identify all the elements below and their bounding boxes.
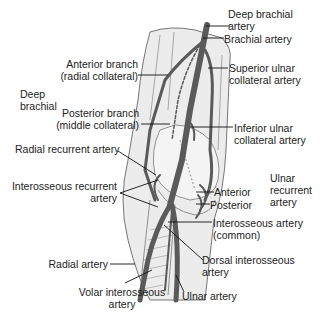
label-radial-recurrent: Radial recurrent artery — [15, 143, 119, 155]
label-anterior: Anterior — [214, 186, 251, 198]
label-posterior-branch: Posterior branch (middle collateral) — [56, 107, 139, 131]
label-deep-brachial-artery: Deep brachial artery — [228, 8, 293, 32]
label-interosseous-common: Interosseous artery (common) — [213, 217, 303, 241]
label-dorsal-interosseous: Dorsal interosseous artery — [202, 254, 295, 278]
label-ulnar-artery: Ulnar artery — [182, 290, 237, 302]
label-ulnar-recurrent: Ulnar recurrent artery — [270, 172, 312, 208]
label-anterior-branch: Anterior branch (radial collateral) — [60, 58, 138, 82]
elbow-arteries-diagram: Deep brachial artery Brachial artery Ant… — [0, 0, 322, 315]
label-posterior: Posterior — [210, 199, 252, 211]
label-inferior-ulnar-collateral: Inferior ulnar collateral artery — [234, 122, 306, 146]
label-radial-artery: Radial artery — [48, 258, 108, 270]
label-superior-ulnar-collateral: Superior ulnar collateral artery — [229, 62, 301, 86]
label-deep-brachial: Deep brachial — [20, 88, 57, 112]
label-volar-interosseous: Volar interosseous artery — [72, 286, 172, 310]
label-brachial-artery: Brachial artery — [224, 33, 292, 45]
label-interosseous-recurrent: Interosseous recurrent artery — [12, 180, 117, 204]
